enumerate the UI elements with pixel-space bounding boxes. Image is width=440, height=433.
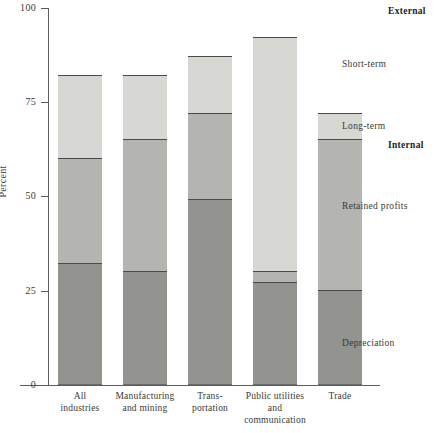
- y-axis-title: Percent: [0, 165, 8, 197]
- segment-depreciation-transportation: [188, 199, 232, 384]
- annotation-external: External: [388, 6, 426, 16]
- annotation-depreciation: Depreciation: [342, 338, 395, 348]
- y-tick-label-100: 100: [20, 2, 36, 13]
- segment-retained-profits-manufacturing-and-mining: [123, 139, 167, 271]
- y-tick-label-0: 0: [31, 379, 36, 390]
- segment-external-manufacturing-and-mining: [123, 7, 167, 75]
- segment-depreciation-trade: [318, 290, 362, 384]
- bar-transportation: [188, 8, 232, 385]
- segment-retained-profits-trade: [318, 139, 362, 290]
- y-tick-label-75: 75: [25, 96, 36, 107]
- bar-all-industries: [58, 8, 102, 385]
- y-tick-label-25: 25: [25, 285, 36, 296]
- segment-retained-profits-all-industries: [58, 158, 102, 264]
- bar-public-utilities-and-communication: [253, 8, 297, 385]
- segment-external-transportation: [188, 7, 232, 56]
- stacked-bar-chart: 100 75 50 25 0 Percent: [0, 0, 440, 433]
- bar-manufacturing-and-mining: [123, 8, 167, 385]
- y-tick-75: [41, 102, 48, 103]
- y-tick-50: [41, 196, 48, 197]
- category-line: and: [229, 402, 321, 414]
- category-line: Trade: [294, 390, 386, 402]
- annotation-long-term: Long-term: [342, 121, 385, 131]
- annotation-retained-profits: Retained profits: [342, 201, 408, 211]
- segment-external-public-utilities: [253, 7, 297, 37]
- segment-long-term-public-utilities: [253, 37, 297, 271]
- segment-long-term-transportation: [188, 56, 232, 113]
- annotation-internal: Internal: [388, 140, 424, 150]
- segment-long-term-manufacturing-and-mining: [123, 75, 167, 139]
- segment-long-term-all-industries: [58, 75, 102, 158]
- y-tick-100: [41, 8, 48, 9]
- segment-depreciation-all-industries: [58, 263, 102, 384]
- x-axis-baseline: [20, 385, 380, 386]
- y-tick-label-50: 50: [25, 190, 36, 201]
- segment-retained-profits-public-utilities: [253, 271, 297, 282]
- y-tick-25: [41, 291, 48, 292]
- segment-retained-profits-transportation: [188, 113, 232, 200]
- category-line: communication: [229, 414, 321, 426]
- segment-depreciation-public-utilities: [253, 282, 297, 384]
- y-tick-0: [41, 385, 48, 386]
- annotation-short-term: Short-term: [342, 59, 386, 69]
- category-label-trade: Trade: [294, 390, 386, 402]
- segment-depreciation-manufacturing-and-mining: [123, 271, 167, 384]
- plot-area: [48, 8, 380, 385]
- segment-external-all-industries: [58, 7, 102, 75]
